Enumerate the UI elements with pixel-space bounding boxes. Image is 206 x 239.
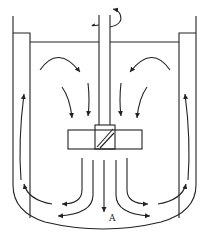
flow-arrow	[130, 57, 170, 72]
flow-arrow	[40, 57, 80, 72]
rotation-arrow-icon	[92, 9, 121, 27]
flow-arrow	[137, 87, 147, 118]
flow-arrow	[62, 158, 82, 204]
flow-arrow	[62, 87, 72, 118]
flow-arrow	[127, 158, 148, 204]
flow-arrow	[88, 83, 89, 116]
flow-arrow	[24, 184, 52, 204]
point-a-label: A	[109, 214, 116, 223]
flow-arrow	[20, 94, 24, 180]
flow-arrow	[158, 184, 186, 204]
flow-arrow	[116, 160, 150, 216]
flow-arrow	[185, 94, 189, 180]
impeller-blade	[68, 130, 142, 149]
flow-arrow	[58, 160, 93, 216]
left-baffle	[13, 33, 30, 218]
stirred-tank-diagram	[0, 0, 206, 239]
flow-arrow	[120, 83, 121, 116]
right-baffle	[179, 33, 196, 218]
